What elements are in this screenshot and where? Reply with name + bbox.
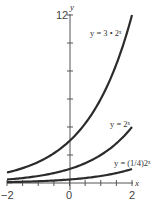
y-max-label: 12 bbox=[56, 9, 68, 21]
curve-label-2x: y = 2ˣ bbox=[110, 119, 131, 129]
y-axis-label: y bbox=[69, 2, 74, 12]
curve-label-quarter-2x: y = (1/4)2ˣ bbox=[114, 158, 151, 168]
curve-label-3x2x: y = 3 • 2ˣ bbox=[90, 28, 122, 38]
x-max-label: 2 bbox=[129, 189, 135, 201]
x-axis-label: x bbox=[134, 178, 139, 188]
x-min-label: −2 bbox=[1, 189, 14, 201]
chart-canvas: 12 y x −2 0 2 y = 3 • 2ˣ y = 2ˣ y = (1/4… bbox=[0, 0, 161, 204]
exponential-chart: 12 y x −2 0 2 y = 3 • 2ˣ y = 2ˣ y = (1/4… bbox=[0, 0, 161, 204]
x-zero-label: 0 bbox=[66, 189, 72, 201]
